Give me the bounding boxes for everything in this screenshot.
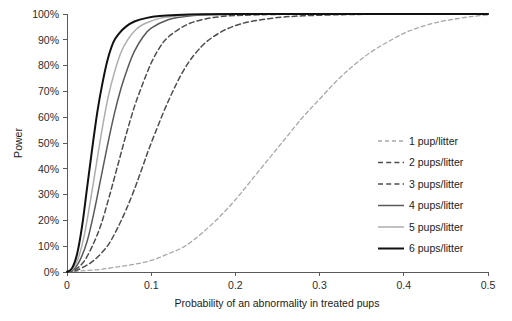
legend-label-2: 2 pups/litter bbox=[409, 156, 464, 168]
y-tick-label: 100% bbox=[32, 8, 59, 20]
y-tick-label: 10% bbox=[38, 240, 59, 252]
x-tick-label: 0 bbox=[64, 279, 70, 291]
chart-figure: 0%10%20%30%40%50%60%70%80%90%100% 00.10.… bbox=[0, 0, 512, 321]
y-tick-label: 70% bbox=[38, 85, 59, 97]
y-tick-label: 60% bbox=[38, 111, 59, 123]
y-tick-label: 30% bbox=[38, 188, 59, 200]
x-axis-tick-labels: 00.10.20.30.40.5 bbox=[64, 279, 495, 291]
chart-legend: 1 pup/litter2 pups/litter3 pups/litter4 … bbox=[378, 135, 464, 255]
y-tick-label: 50% bbox=[38, 137, 59, 149]
y-axis-title: Power bbox=[12, 128, 24, 158]
x-tick-label: 0.3 bbox=[312, 279, 327, 291]
x-tick-label: 0.1 bbox=[144, 279, 159, 291]
legend-label-5: 5 pups/litter bbox=[409, 221, 464, 233]
x-axis-title: Probability of an abnormality in treated… bbox=[175, 297, 380, 309]
legend-label-4: 4 pups/litter bbox=[409, 199, 464, 211]
power-curve-chart: 0%10%20%30%40%50%60%70%80%90%100% 00.10.… bbox=[0, 0, 512, 321]
y-tick-label: 40% bbox=[38, 163, 59, 175]
y-tick-label: 80% bbox=[38, 59, 59, 71]
y-tick-label: 0% bbox=[44, 266, 59, 278]
legend-label-6: 6 pups/litter bbox=[409, 242, 464, 254]
y-tick-label: 20% bbox=[38, 214, 59, 226]
x-tick-label: 0.4 bbox=[396, 279, 411, 291]
y-axis-tick-labels: 0%10%20%30%40%50%60%70%80%90%100% bbox=[32, 8, 59, 278]
legend-label-3: 3 pups/litter bbox=[409, 178, 464, 190]
x-tick-label: 0.5 bbox=[481, 279, 496, 291]
y-tick-label: 90% bbox=[38, 34, 59, 46]
legend-label-1: 1 pup/litter bbox=[409, 135, 459, 147]
x-tick-label: 0.2 bbox=[228, 279, 243, 291]
